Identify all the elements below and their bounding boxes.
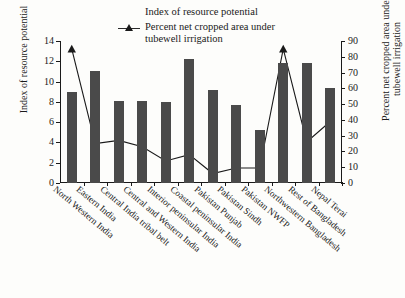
y-axis-right-title-line2: tubewell irrigation bbox=[391, 22, 402, 96]
bar-11 bbox=[325, 88, 335, 183]
legend-item-bar: Index of resource potential bbox=[118, 6, 358, 19]
y-axis-left-tick-label: 2 bbox=[49, 158, 54, 168]
y-axis-left-tick bbox=[56, 82, 60, 83]
y-axis-right-tick bbox=[341, 167, 345, 168]
y-axis-right-tick bbox=[341, 57, 345, 58]
line-marker-9 bbox=[279, 45, 287, 53]
bar-9 bbox=[278, 63, 288, 183]
y-axis-left-tick-label: 4 bbox=[49, 137, 54, 147]
bar-3 bbox=[137, 101, 147, 183]
plot-area: 024681012140102030405060708090 bbox=[60, 41, 342, 183]
y-axis-right-tick-label: 10 bbox=[348, 162, 358, 172]
y-axis-right-tick-label: 50 bbox=[348, 99, 358, 109]
y-axis-left-tick bbox=[56, 142, 60, 143]
y-axis-left-tick bbox=[56, 61, 60, 62]
line-marker-0 bbox=[68, 45, 76, 53]
bar-6 bbox=[208, 90, 218, 183]
y-axis-left-tick-label: 0 bbox=[49, 178, 54, 188]
y-axis-right-tick-label: 60 bbox=[348, 83, 358, 93]
legend-line-triangle-icon bbox=[118, 23, 140, 34]
y-axis-right-tick bbox=[341, 88, 345, 89]
y-axis-right-tick bbox=[341, 151, 345, 152]
y-axis-right-tick bbox=[341, 104, 345, 105]
bar-0 bbox=[67, 92, 77, 183]
y-axis-left-tick bbox=[56, 102, 60, 103]
y-axis-right-tick bbox=[341, 120, 345, 121]
y-axis-right-tick-label: 90 bbox=[348, 36, 358, 46]
chart-legend: Index of resource potential Percent net … bbox=[118, 6, 358, 46]
y-axis-left-title: Index of resource potential bbox=[18, 0, 29, 135]
y-axis-left-tick bbox=[56, 41, 60, 42]
y-axis-left-tick-label: 6 bbox=[49, 117, 54, 127]
y-axis-left-tick-label: 8 bbox=[49, 97, 54, 107]
y-axis-left-tick-label: 14 bbox=[44, 36, 54, 46]
y-axis-right-tick bbox=[341, 136, 345, 137]
bar-7 bbox=[231, 105, 241, 183]
legend-label-index: Index of resource potential bbox=[145, 6, 258, 18]
line-series-overlay bbox=[60, 41, 342, 183]
bar-4 bbox=[161, 102, 171, 183]
y-axis-left-tick bbox=[56, 122, 60, 123]
line-series-path bbox=[72, 49, 331, 174]
y-axis-right-tick-label: 40 bbox=[348, 115, 358, 125]
y-axis-right-tick-label: 30 bbox=[348, 131, 358, 141]
bar-10 bbox=[302, 63, 312, 183]
bar-1 bbox=[90, 71, 100, 183]
y-axis-right-tick bbox=[341, 73, 345, 74]
bar-2 bbox=[114, 101, 124, 183]
y-axis-right-tick bbox=[341, 41, 345, 42]
x-axis-labels: North Western IndiaEastern IndiaCentral … bbox=[60, 184, 342, 296]
y-axis-right-tick-label: 70 bbox=[348, 68, 358, 78]
y-axis-left-tick-label: 10 bbox=[44, 77, 54, 87]
y-axis-right-tick-label: 0 bbox=[348, 178, 353, 188]
bar-5 bbox=[184, 59, 194, 183]
legend-bar-swatch-icon bbox=[118, 8, 140, 19]
chart-figure: Index of resource potential Percent net … bbox=[0, 0, 405, 298]
y-axis-right-tick-label: 20 bbox=[348, 146, 358, 156]
y-axis-right-title: Percent net cropped area under tubewell … bbox=[380, 0, 402, 139]
legend-label-percent-line1: Percent net cropped area under bbox=[145, 21, 275, 32]
y-axis-left-tick-label: 12 bbox=[44, 56, 54, 66]
y-axis-left-tick bbox=[56, 163, 60, 164]
y-axis-right-title-line1: Percent net cropped area under bbox=[380, 0, 391, 121]
y-axis-right-tick-label: 80 bbox=[348, 52, 358, 62]
bar-8 bbox=[255, 130, 265, 183]
x-axis-tick bbox=[342, 182, 343, 186]
